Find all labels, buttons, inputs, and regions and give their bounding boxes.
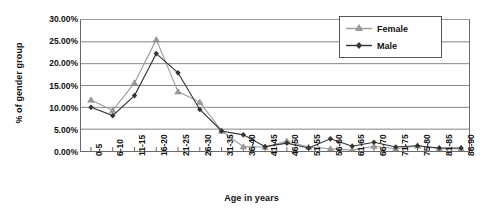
x-tick-label: 71-75: [400, 134, 410, 156]
x-tick-label: 61-65: [356, 134, 366, 156]
x-tick-label: 41-45: [269, 134, 279, 156]
x-tick-label: 46-50: [290, 134, 300, 156]
x-tick-label: 16-20: [159, 134, 169, 156]
x-tick-label: 51-55: [312, 134, 322, 156]
x-tick-label: 6-10: [115, 139, 125, 156]
x-axis-title: Age in years: [0, 193, 503, 203]
line-chart: % of gender group 0.00%5.00%10.00%15.00%…: [0, 0, 503, 213]
x-tick-label: 31-35: [225, 134, 235, 156]
x-tick-label: 36-40: [247, 134, 257, 156]
legend-label-male: Male: [377, 41, 397, 51]
legend-item-female: Female: [340, 20, 441, 37]
x-tick-label: 66-70: [378, 134, 388, 156]
x-tick-label: 81-85: [444, 134, 454, 156]
female-marker-icon: [346, 23, 372, 34]
x-tick-label: 21-25: [181, 134, 191, 156]
legend: Female Male: [339, 16, 442, 58]
legend-item-male: Male: [340, 37, 441, 54]
x-tick-label: 0-5: [94, 144, 104, 156]
x-tick-label: 11-15: [137, 135, 147, 156]
x-tick-label: 86-90: [466, 134, 476, 156]
x-tick-label: 26-30: [203, 134, 213, 156]
male-marker-icon: [346, 40, 372, 51]
legend-label-female: Female: [377, 24, 408, 34]
x-tick-label: 56-60: [334, 134, 344, 156]
x-tick-label: 75-80: [422, 134, 432, 156]
